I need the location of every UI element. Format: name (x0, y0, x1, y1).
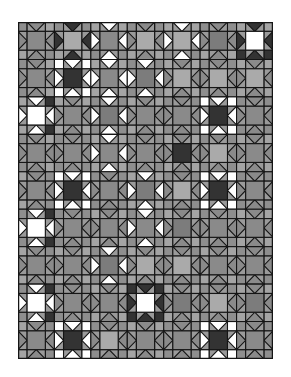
quilt-image (18, 22, 273, 359)
quilt-svg (18, 22, 273, 359)
